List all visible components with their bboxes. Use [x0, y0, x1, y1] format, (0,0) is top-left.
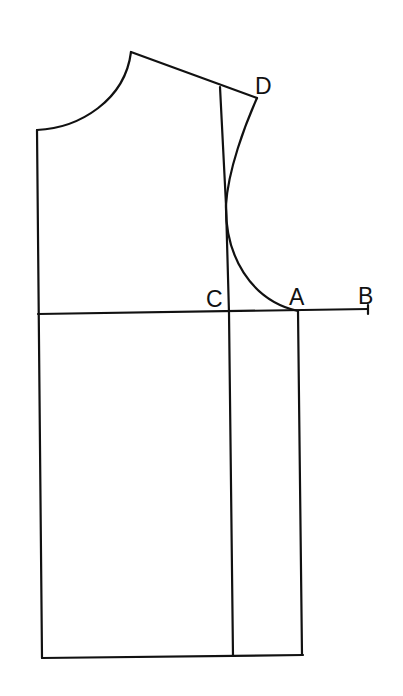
armhole-curve: [226, 98, 298, 311]
hem-line: [42, 655, 303, 658]
label-c: C: [206, 286, 223, 312]
label-a: A: [289, 284, 305, 310]
label-b: B: [358, 283, 373, 309]
chest-line: [38, 309, 368, 314]
center-front-line: [37, 130, 42, 658]
pattern-diagram: D C A B: [0, 0, 403, 696]
side-seam-line: [298, 311, 302, 655]
label-d: D: [255, 73, 272, 99]
neckline-curve: [37, 52, 131, 130]
shoulder-line: [131, 52, 257, 98]
